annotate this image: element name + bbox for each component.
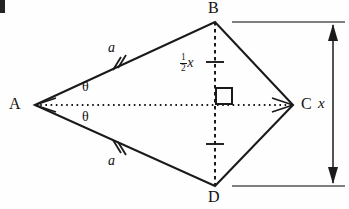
dimension-label-x: x <box>318 96 325 111</box>
vertex-label-d: D <box>208 189 220 205</box>
vertex-label-a: A <box>9 96 21 112</box>
figure-canvas <box>0 0 349 209</box>
dimension-arrow-head-top <box>328 24 338 41</box>
side-label-ab: a <box>108 41 115 55</box>
dimension-arrow-head-bottom <box>328 167 338 184</box>
geometry-figure: B A C D a a θ θ 1 2 x x <box>0 0 349 209</box>
side-label-ad: a <box>108 154 115 168</box>
fraction-one-half: 1 2 <box>180 53 187 74</box>
fraction-variable: x <box>187 55 193 71</box>
vertex-label-c: C <box>301 96 312 112</box>
fraction-denominator: 2 <box>180 64 187 74</box>
angle-label-upper: θ <box>82 80 89 94</box>
right-angle-marker <box>216 88 232 104</box>
half-x-label: 1 2 x <box>180 53 193 74</box>
angle-label-lower: θ <box>82 110 89 124</box>
vertex-label-b: B <box>208 0 219 16</box>
